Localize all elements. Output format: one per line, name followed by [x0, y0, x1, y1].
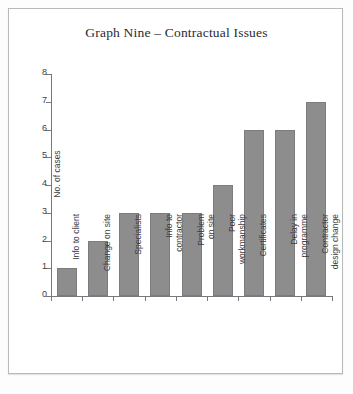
- x-tick-label: Poor workmanship: [227, 214, 247, 304]
- x-tick-label: Certificates: [258, 214, 268, 304]
- x-tick-label: Change on site: [102, 214, 112, 304]
- plot-area: No. of cases 012345678 Info to clientCha…: [51, 74, 336, 296]
- scanned-page: Graph Nine – Contractual Issues No. of c…: [0, 0, 353, 394]
- y-tick-label: 3: [42, 206, 47, 216]
- y-tick-label: 8: [42, 67, 47, 77]
- chart-sheet: Graph Nine – Contractual Issues No. of c…: [8, 8, 343, 374]
- x-tick-mark: [270, 296, 271, 301]
- y-axis-title: No. of cases: [52, 134, 62, 214]
- y-tick-label: 7: [42, 95, 47, 105]
- x-tick-mark: [113, 296, 114, 301]
- y-tick-label: 1: [42, 261, 47, 271]
- x-tick-label: Info to client: [71, 214, 81, 304]
- x-tick-label: Delay in programme: [289, 214, 309, 304]
- x-tick-label: Info to contractor: [164, 214, 184, 304]
- y-tick-label: 4: [42, 178, 47, 188]
- y-tick-label: 0: [42, 289, 47, 299]
- x-tick-label: Contractor design change: [320, 214, 340, 304]
- y-tick-label: 2: [42, 234, 47, 244]
- y-tick-label: 6: [42, 123, 47, 133]
- x-tick-label: Problem on site: [196, 214, 216, 304]
- x-tick-mark: [51, 296, 52, 301]
- x-tick-mark: [82, 296, 83, 301]
- y-tick-label: 5: [42, 150, 47, 160]
- x-tick-label: Specialists: [133, 214, 143, 304]
- page-title: Graph Nine – Contractual Issues: [9, 25, 344, 41]
- x-tick-mark: [145, 296, 146, 301]
